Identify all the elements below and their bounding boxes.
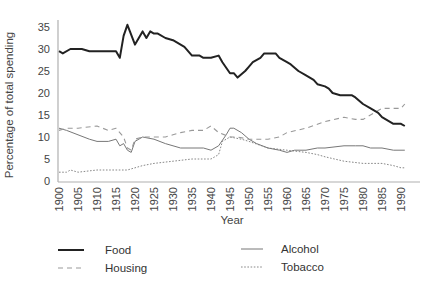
series-line-tobacco	[59, 137, 405, 172]
legend-label: Food	[105, 244, 131, 256]
legend-item-food: Food	[58, 244, 131, 256]
x-tick-label: 1950	[243, 187, 255, 211]
x-tick-label: 1930	[167, 187, 179, 211]
x-tick-label: 1920	[129, 187, 141, 211]
x-tick-label: 1960	[281, 187, 293, 211]
x-tick-label: 1945	[224, 187, 236, 211]
x-tick-label: 1905	[72, 187, 84, 211]
x-tick-label: 1955	[262, 187, 274, 211]
x-tick-label: 1975	[338, 187, 350, 211]
y-axis-title: Percentage of total spending	[3, 32, 15, 178]
legend-item-tobacco: Tobacco	[241, 261, 324, 273]
legend: FoodHousingAlcoholTobacco	[58, 243, 324, 274]
legend-item-housing: Housing	[58, 262, 147, 274]
x-tick-label: 1900	[53, 187, 65, 211]
series-line-food	[59, 25, 405, 126]
x-axis-title: Year	[220, 214, 243, 226]
x-tick-label: 1985	[376, 187, 388, 211]
x-tick-label: 1980	[357, 187, 369, 211]
legend-label: Alcohol	[281, 243, 319, 255]
y-tick-label: 35	[38, 21, 50, 33]
series-line-alcohol	[59, 128, 405, 152]
y-tick-label: 5	[44, 153, 50, 165]
x-tick-label: 1935	[186, 187, 198, 211]
x-tick-label: 1970	[319, 187, 331, 211]
x-axis: 1900190519101915192019251930193519401945…	[53, 182, 420, 211]
x-tick-label: 1965	[300, 187, 312, 211]
y-axis: 05101520253035	[38, 20, 58, 187]
series-line-housing	[59, 104, 405, 150]
x-tick-label: 1925	[148, 187, 160, 211]
y-tick-label: 25	[38, 65, 50, 77]
legend-item-alcohol: Alcohol	[241, 243, 319, 255]
legend-label: Tobacco	[281, 261, 324, 273]
x-tick-label: 1915	[110, 187, 122, 211]
line-chart: 05101520253035 1900190519101915192019251…	[0, 0, 441, 287]
y-tick-label: 10	[38, 131, 50, 143]
y-tick-label: 0	[44, 175, 50, 187]
y-tick-label: 15	[38, 109, 50, 121]
y-tick-label: 30	[38, 43, 50, 55]
plot-lines	[59, 25, 405, 172]
x-tick-label: 1990	[395, 187, 407, 211]
legend-label: Housing	[105, 262, 147, 274]
x-tick-label: 1910	[91, 187, 103, 211]
y-tick-label: 20	[38, 87, 50, 99]
x-tick-label: 1940	[205, 187, 217, 211]
